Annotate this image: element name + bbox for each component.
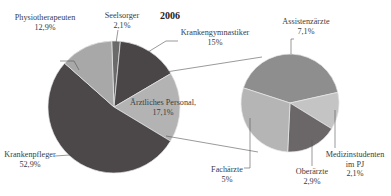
label-name-line2: im PJ bbox=[322, 160, 388, 170]
label-value: 17,1% bbox=[122, 108, 204, 118]
label-krankenpfleger: Krankenpfleger 52,9% bbox=[2, 150, 58, 169]
label-aerztliches-personal: Ärztliches Personal, 17,1% bbox=[122, 98, 204, 117]
label-name: Ärztliches Personal, bbox=[122, 98, 204, 108]
label-value: 15% bbox=[170, 38, 260, 48]
label-value: 5% bbox=[207, 175, 247, 185]
label-name: Seelsorger bbox=[97, 11, 147, 21]
label-name: Medizinstudenten bbox=[322, 150, 388, 160]
label-name: Krankengymnastiker bbox=[170, 28, 260, 38]
label-seelsorger: Seelsorger 2,1% bbox=[97, 11, 147, 30]
label-krankengymnastiker: Krankengymnastiker 15% bbox=[170, 28, 260, 47]
label-name: Physiotherapeuten bbox=[10, 13, 80, 23]
chart-title: 2006 bbox=[160, 10, 180, 21]
label-value: 52,9% bbox=[2, 160, 58, 170]
label-value: 2,1% bbox=[322, 169, 388, 179]
label-name: Assistenzärzte bbox=[276, 17, 336, 27]
label-assistenzaerzte: Assistenzärzte 7,1% bbox=[276, 17, 336, 36]
label-fachaerzte: Fachärzte 5% bbox=[207, 165, 247, 184]
label-physiotherapeuten: Physiotherapeuten 12,9% bbox=[10, 13, 80, 32]
label-value: 7,1% bbox=[276, 27, 336, 37]
label-value: 2,1% bbox=[97, 21, 147, 31]
label-medizinstudenten: Medizinstudenten im PJ 2,1% bbox=[322, 150, 388, 179]
label-name: Fachärzte bbox=[207, 165, 247, 175]
label-value: 12,9% bbox=[10, 23, 80, 33]
detail-pie bbox=[241, 54, 339, 152]
label-name: Krankenpfleger bbox=[2, 150, 58, 160]
